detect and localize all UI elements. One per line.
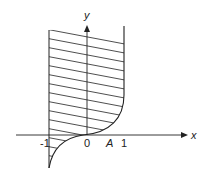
diagram-svg: x y -1 0 A 1 bbox=[0, 0, 200, 181]
y-axis-arrow-icon bbox=[84, 25, 90, 32]
tick-label-a: A bbox=[105, 137, 113, 149]
diagram-canvas: x y -1 0 A 1 bbox=[0, 0, 200, 181]
x-axis-arrow-icon bbox=[181, 132, 188, 138]
hatch-lines bbox=[40, 28, 130, 171]
tick-label-one: 1 bbox=[121, 137, 127, 149]
x-axis-label: x bbox=[190, 129, 197, 141]
tick-label-zero: 0 bbox=[84, 137, 90, 149]
y-axis-label: y bbox=[83, 9, 91, 21]
tick-label-neg-one: -1 bbox=[40, 137, 50, 149]
